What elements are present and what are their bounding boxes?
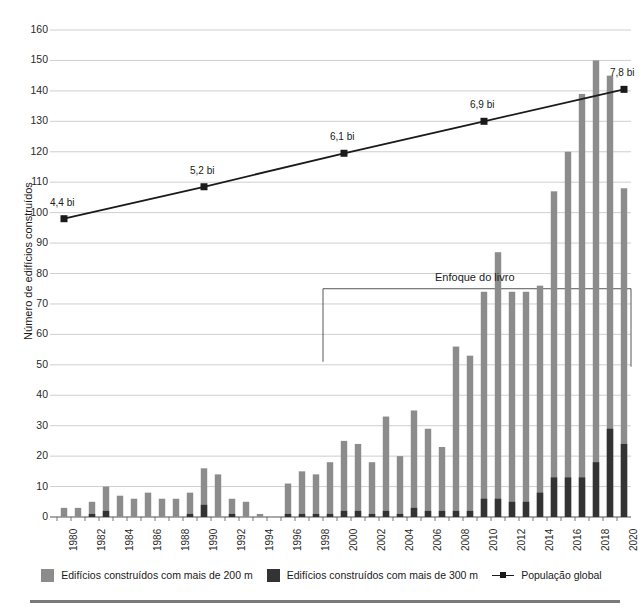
bar-200m <box>215 474 221 517</box>
bar-200m <box>341 441 347 517</box>
x-axis-tick: 2010 <box>488 529 499 551</box>
x-axis-tick: 1998 <box>320 529 331 551</box>
bar-300m <box>607 429 613 517</box>
bar-200m <box>593 60 599 517</box>
bar-200m <box>439 447 445 517</box>
y-axis-tick: 100 <box>22 206 48 218</box>
bar-300m <box>495 499 501 517</box>
y-axis-tick: 50 <box>22 358 48 370</box>
x-axis-tick: 1988 <box>180 529 191 551</box>
bar-200m <box>173 499 179 517</box>
bar-300m <box>229 514 235 517</box>
bar-200m <box>411 410 417 517</box>
x-axis-tick: 2004 <box>404 529 415 551</box>
bar-200m <box>313 474 319 517</box>
legend-line-marker-icon <box>492 569 514 582</box>
x-axis-tick: 1994 <box>264 529 275 551</box>
bar-200m <box>243 502 249 517</box>
bar-300m <box>89 514 95 517</box>
bar-300m <box>313 514 319 517</box>
bar-300m <box>621 444 627 517</box>
bar-300m <box>201 505 207 517</box>
legend-swatch-200m <box>41 569 54 582</box>
y-axis-tick: 130 <box>22 114 48 126</box>
y-axis-tick: 0 <box>22 510 48 522</box>
bar-300m <box>103 511 109 517</box>
bar-300m <box>341 511 347 517</box>
population-marker-label: 7,8 bi <box>610 67 634 78</box>
bar-200m <box>467 356 473 517</box>
chart-plot-area <box>0 0 643 612</box>
y-axis-tick: 10 <box>22 480 48 492</box>
bar-300m <box>327 514 333 517</box>
x-axis-tick: 2008 <box>460 529 471 551</box>
footer-divider <box>30 600 620 603</box>
bar-200m <box>117 496 123 517</box>
y-axis-tick: 60 <box>22 327 48 339</box>
bar-300m <box>397 514 403 517</box>
x-axis-tick: 2012 <box>516 529 527 551</box>
bar-200m <box>425 429 431 517</box>
legend-label-200m: Edifícios construídos com mais de 200 m <box>61 569 252 581</box>
y-axis-tick: 160 <box>22 23 48 35</box>
y-axis-tick: 120 <box>22 145 48 157</box>
bar-200m <box>523 292 529 517</box>
x-axis-tick: 2000 <box>348 529 359 551</box>
bar-300m <box>565 477 571 517</box>
bar-300m <box>187 514 193 517</box>
bar-200m <box>383 417 389 517</box>
bar-200m <box>369 462 375 517</box>
y-axis-tick: 110 <box>22 175 48 187</box>
population-marker-label: 6,1 bi <box>330 131 354 142</box>
bar-300m <box>593 462 599 517</box>
bar-200m <box>355 444 361 517</box>
legend-label-300m: Edifícios construídos com mais de 300 m <box>287 569 478 581</box>
bar-200m <box>75 508 81 517</box>
bar-300m <box>481 499 487 517</box>
population-marker-label: 4,4 bi <box>50 197 74 208</box>
x-axis-tick: 2018 <box>600 529 611 551</box>
bar-200m <box>187 493 193 517</box>
bar-200m <box>495 252 501 517</box>
y-axis-tick: 90 <box>22 236 48 248</box>
bar-200m <box>565 152 571 517</box>
chart-figure: Número de edifícios construídos 01020304… <box>0 0 643 612</box>
bar-200m <box>131 499 137 517</box>
population-marker <box>201 183 208 190</box>
bar-200m <box>159 499 165 517</box>
legend-item-300m: Edifícios construídos com mais de 300 m <box>267 569 478 582</box>
x-axis-tick: 1990 <box>208 529 219 551</box>
bar-300m <box>411 508 417 517</box>
bar-300m <box>537 493 543 517</box>
x-axis-tick: 1984 <box>124 529 135 551</box>
population-marker <box>61 215 68 222</box>
x-axis-tick: 2014 <box>544 529 555 551</box>
population-marker-label: 6,9 bi <box>470 99 494 110</box>
y-axis-tick: 30 <box>22 419 48 431</box>
bar-300m <box>285 514 291 517</box>
bar-300m <box>355 511 361 517</box>
bar-300m <box>383 511 389 517</box>
bar-300m <box>453 511 459 517</box>
bar-300m <box>523 502 529 517</box>
bar-200m <box>579 94 585 517</box>
bar-200m <box>257 514 263 517</box>
y-axis-tick: 20 <box>22 449 48 461</box>
population-marker <box>481 118 488 125</box>
bar-200m <box>453 347 459 517</box>
bar-300m <box>439 511 445 517</box>
bar-200m <box>481 292 487 517</box>
y-axis-tick: 70 <box>22 297 48 309</box>
population-marker-label: 5,2 bi <box>190 165 214 176</box>
population-marker <box>341 150 348 157</box>
bar-200m <box>397 456 403 517</box>
legend-item-200m: Edifícios construídos com mais de 200 m <box>41 569 252 582</box>
bar-300m <box>509 502 515 517</box>
bar-300m <box>551 477 557 517</box>
focus-bracket-label: Enfoque do livro <box>435 271 515 283</box>
bar-300m <box>369 514 375 517</box>
bar-300m <box>467 511 473 517</box>
x-axis-tick: 2016 <box>572 529 583 551</box>
x-axis-tick: 2002 <box>376 529 387 551</box>
bar-300m <box>299 514 305 517</box>
